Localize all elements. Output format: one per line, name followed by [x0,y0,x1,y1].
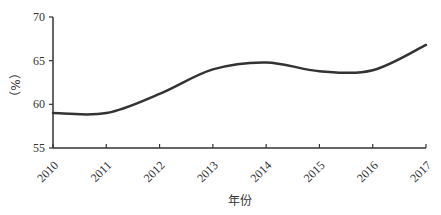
x-tick-label: 2014 [247,158,274,185]
x-tick-label: 2011 [88,158,115,185]
y-tick-label: 60 [33,97,45,111]
x-axis-ticks: 20102011201220132014201520162017 [34,144,434,185]
y-tick-label: 70 [33,10,45,24]
y-axis-ticks: 55606570 [33,10,53,155]
data-line [53,45,426,115]
y-axis-title: （%） [9,67,23,102]
x-tick-label: 2016 [354,158,381,185]
y-tick-label: 65 [33,54,45,68]
x-tick-label: 2010 [34,158,61,185]
x-tick-label: 2017 [407,158,434,185]
line-chart: 55606570 2010201120122013201420152016201… [0,0,441,215]
x-axis-title: 年份 [228,194,252,208]
x-tick-label: 2013 [194,158,221,185]
y-tick-label: 55 [33,141,45,155]
x-tick-label: 2012 [141,158,168,185]
x-tick-label: 2015 [301,158,328,185]
